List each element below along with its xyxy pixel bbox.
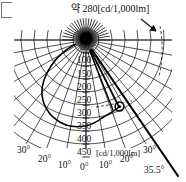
radial-tick-100: 100 bbox=[77, 56, 91, 66]
radial-tick-200: 200 bbox=[77, 83, 91, 93]
angle-tick-right-30: 30° bbox=[143, 146, 156, 156]
radial-tick-350: 350 bbox=[77, 122, 91, 132]
radial-tick-400: 400 bbox=[77, 135, 91, 145]
radial-tick-150: 150 bbox=[77, 70, 91, 80]
angle-tick-left-20: 20° bbox=[38, 155, 51, 165]
radial-tick-300: 300 bbox=[77, 109, 91, 119]
angle-tick-left-10: 10° bbox=[58, 161, 71, 171]
angle-tick-center-0: 0° bbox=[80, 163, 89, 173]
radial-unit-label: [cd/1,000lm] bbox=[96, 149, 140, 158]
callout-arrow-icon bbox=[141, 19, 156, 31]
radial-tick-250: 250 bbox=[77, 96, 91, 106]
radial-tick-450: 450 bbox=[77, 148, 91, 158]
angle-tick-right-10: 10° bbox=[99, 161, 112, 171]
beam-edge-label: 35.5° bbox=[144, 166, 164, 176]
radial-tick-50: 50 bbox=[80, 43, 90, 53]
peak-marker bbox=[115, 102, 124, 111]
angle-tick-left-30: 30° bbox=[17, 146, 30, 156]
peak-intensity-title: 약 280[cd/1,000lm] bbox=[71, 4, 149, 14]
angle-tick-right-20: 20° bbox=[120, 155, 133, 165]
dashed-boundary-arc bbox=[159, 26, 162, 76]
